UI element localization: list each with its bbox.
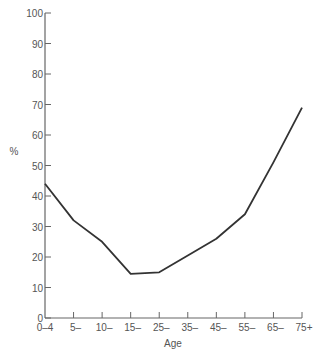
- y-axis-title: %: [10, 146, 19, 157]
- x-tick-label: 55–: [239, 322, 256, 333]
- x-axis-title: Age: [164, 338, 182, 349]
- x-tick-label: 35–: [181, 322, 198, 333]
- x-tick-label: 10–: [96, 322, 113, 333]
- y-tick-label: 90: [32, 39, 44, 50]
- x-tick-label: 0–4: [37, 322, 54, 333]
- x-tick-label: 5–: [70, 322, 82, 333]
- x-tick-label: 65–: [267, 322, 284, 333]
- y-tick-label: 50: [32, 161, 44, 172]
- x-tick-label: 75+: [296, 322, 313, 333]
- y-axis: 0102030405060708090100: [26, 8, 51, 324]
- y-tick-label: 80: [32, 69, 44, 80]
- y-tick-label: 70: [32, 100, 44, 111]
- x-tick-label: 25–: [153, 322, 170, 333]
- x-tick-label: 15–: [124, 322, 141, 333]
- x-axis: 0–45–10–15–25–35–45–55–65–75+: [37, 312, 313, 333]
- y-tick-label: 10: [32, 283, 44, 294]
- y-tick-label: 40: [32, 191, 44, 202]
- x-tick-label: 45–: [210, 322, 227, 333]
- line-chart: 0102030405060708090100 0–45–10–15–25–35–…: [0, 0, 321, 358]
- y-tick-label: 30: [32, 222, 44, 233]
- y-tick-label: 100: [26, 8, 43, 19]
- data-line: [45, 108, 302, 274]
- y-tick-label: 20: [32, 252, 44, 263]
- y-tick-label: 60: [32, 130, 44, 141]
